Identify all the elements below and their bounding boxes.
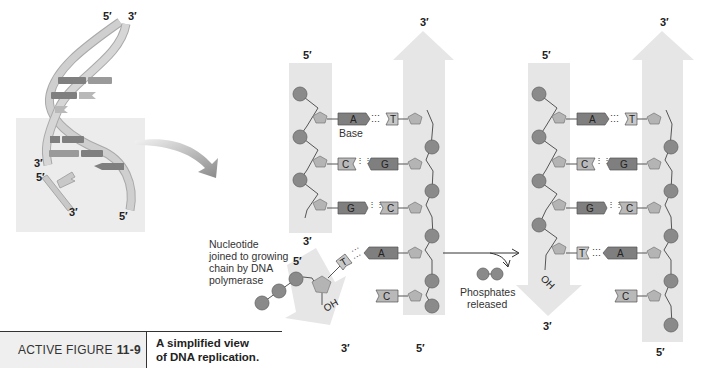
svg-text:G: G [381,159,389,170]
svg-text:C: C [622,291,629,302]
helix-label-bottom-3: 3′ [69,206,78,218]
svg-text:A: A [617,248,624,259]
svg-text:···: ··· [592,250,601,260]
strand-label-3: 3′ [660,16,669,28]
base-pair-c-g: C ⋮⋮⋮ G [327,156,408,170]
svg-text:polymerase: polymerase [209,274,263,286]
strand-label-5: 5′ [293,255,302,267]
strand-arrow-up [632,31,694,342]
svg-text:G: G [620,159,628,170]
base-pair-a-t: A ··· ··· T [566,110,647,126]
figure-label: ACTIVE FIGURE 11-9 [0,332,147,368]
svg-text:···: ··· [371,116,380,126]
strand-label-5: 5′ [416,342,425,354]
svg-text:C: C [581,159,588,170]
helix-label-top-5: 5′ [103,10,112,22]
strand-label-3: 3′ [303,235,312,247]
strand-label-3: 3′ [420,16,429,28]
svg-text:A: A [350,114,357,125]
helix-label-mid-3: 3′ [34,157,43,169]
svg-text:T: T [390,114,396,125]
dna-helix-overview: 5′ 3′ 3′ 5′ 3′ 5′ [16,10,218,232]
strand-label-5: 5′ [542,49,551,61]
nucleotide-note: Nucleotide joined to growing chain by DN… [208,238,289,286]
svg-text:G: G [347,203,355,214]
svg-text:Nucleotide: Nucleotide [209,238,259,250]
svg-text:C: C [383,291,390,302]
svg-text:A: A [378,248,385,259]
figure-caption-text: A simplified view of DNA replication. [147,332,259,368]
svg-text:G: G [586,203,594,214]
caption-line: A simplified view [156,336,259,350]
svg-text:A: A [589,114,596,125]
svg-text:T: T [629,114,635,125]
figure-caption: ACTIVE FIGURE 11-9 A simplified view of … [0,331,282,368]
base-pair-g-c: G ⋮⋮⋮ C [327,200,408,214]
svg-text:C: C [342,159,349,170]
svg-text:C: C [626,203,633,214]
base-a-incoming-pair: A ··· ··· [349,243,408,263]
phosphates-label: Phosphates [460,286,515,298]
caption-line: of DNA replication. [156,350,259,364]
base-label: Base [339,127,363,139]
zoom-arrow-icon [135,139,218,178]
base-pair-c-g: C ⋮⋮⋮ G [566,156,647,170]
svg-text:joined to growing: joined to growing [208,250,289,262]
strand-arrow-up [393,31,454,315]
svg-text:C: C [387,203,394,214]
strand-label-3: 3′ [341,342,350,354]
strand-label-5: 5′ [303,49,312,61]
helix-label-top-3: 3′ [128,10,137,22]
strand-label-3: 3′ [543,320,552,332]
helix-label-mid-5: 5′ [36,171,45,183]
base-pair-g-c: G ⋮⋮⋮ C [566,200,647,214]
phosphates-label: released [467,298,507,310]
svg-text:chain by DNA: chain by DNA [209,262,273,274]
phosphates-icon [477,268,503,280]
base-pair-t-a: T ··· ··· A [566,244,647,260]
panel-before-replication: 5′ 3′ 3′ 5′ 5′ 3′ A ··· ··· [208,16,454,354]
figure-label-number: 11-9 [117,343,141,357]
helix-label-bottom-5: 5′ [119,210,128,222]
figure-label-prefix: ACTIVE FIGURE [18,343,113,357]
transition-arrow: Phosphates released [443,249,519,310]
panel-after-replication: 5′ 3′ 3′ 5′ OH A ··· ··· [516,16,694,358]
svg-text:···: ··· [610,116,619,126]
base-pair-a-t: A ··· ··· T [327,110,408,126]
strand-label-5: 5′ [656,346,665,358]
svg-text:T: T [579,248,585,259]
